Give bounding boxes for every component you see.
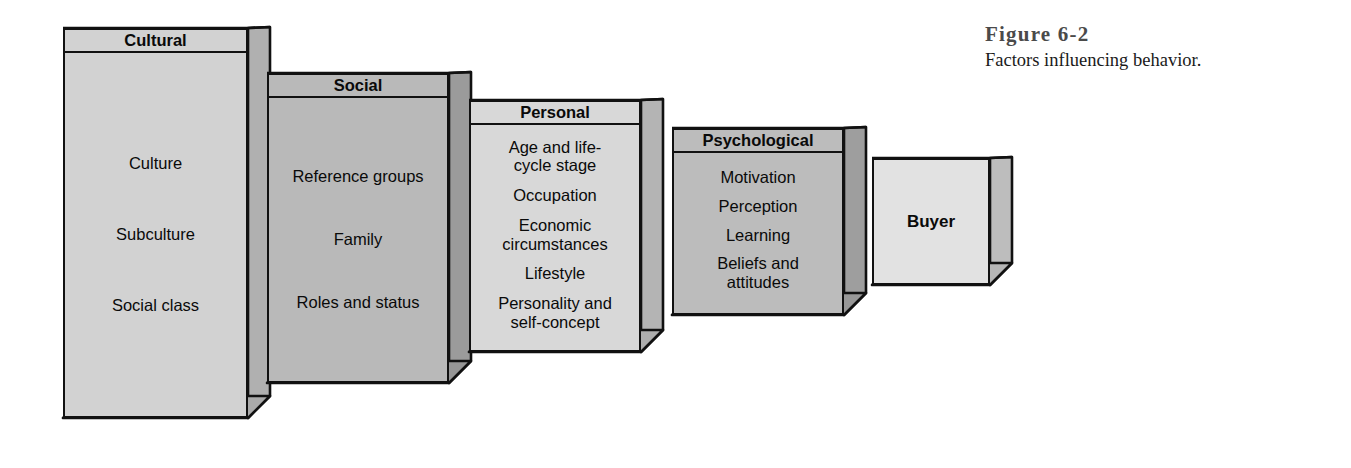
list-item: Personality and self-concept [498, 294, 612, 332]
box-personal-items: Age and life- cycle stage Occupation Eco… [471, 125, 639, 350]
list-item: Perception [719, 197, 798, 216]
box-cultural-items: Culture Subculture Social class [65, 53, 246, 416]
box-buyer-label: Buyer [907, 212, 955, 232]
box-personal-front-face[interactable]: Personal Age and life- cycle stage Occup… [469, 100, 641, 352]
box-psychological-side-face [844, 127, 866, 315]
box-psychological-front-face[interactable]: Psychological Motivation Perception Lear… [672, 128, 844, 315]
figure-canvas: Figure 6-2 Factors influencing behavior.… [0, 0, 1351, 468]
box-social-header: Social [269, 75, 447, 98]
list-item: Social class [112, 296, 199, 315]
figure-subtitle: Factors influencing behavior. [985, 48, 1315, 72]
box-social-side-face [449, 72, 471, 383]
list-item: Lifestyle [525, 264, 586, 283]
list-item: Economic circumstances [502, 216, 607, 254]
figure-number: Figure 6-2 [985, 22, 1315, 46]
box-social-items: Reference groups Family Roles and status [269, 98, 447, 381]
box-buyer-front-face[interactable]: Buyer [872, 158, 990, 285]
list-item: Family [334, 230, 383, 249]
list-item: Roles and status [297, 293, 420, 312]
box-personal-side-face [641, 99, 663, 352]
list-item: Beliefs and attitudes [717, 254, 799, 292]
list-item: Occupation [513, 186, 596, 205]
list-item: Subculture [116, 225, 195, 244]
box-cultural-header: Cultural [65, 30, 246, 53]
list-item: Culture [129, 154, 182, 173]
box-psychological-items: Motivation Perception Learning Beliefs a… [674, 153, 842, 313]
box-social-front-face[interactable]: Social Reference groups Family Roles and… [267, 73, 449, 383]
list-item: Reference groups [292, 167, 423, 186]
box-psychological-header: Psychological [674, 130, 842, 153]
figure-caption: Figure 6-2 Factors influencing behavior. [985, 22, 1315, 72]
list-item: Motivation [720, 168, 795, 187]
list-item: Age and life- cycle stage [509, 138, 602, 176]
box-personal-header: Personal [471, 102, 639, 125]
list-item: Learning [726, 226, 790, 245]
box-cultural-front-face[interactable]: Cultural Culture Subculture Social class [63, 28, 248, 418]
